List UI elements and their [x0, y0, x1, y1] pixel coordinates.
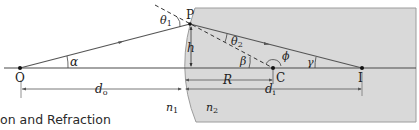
point-O-dot — [18, 66, 22, 70]
label-O: O — [15, 71, 25, 85]
point-C-dot — [271, 66, 275, 70]
label-I: I — [358, 71, 363, 85]
label-R: R — [222, 73, 232, 87]
label-theta1: θ1 — [160, 14, 172, 28]
incident-ray — [20, 24, 190, 68]
label-P: P — [186, 8, 194, 22]
label-gamma: γ — [307, 56, 314, 69]
point-I-dot — [360, 66, 364, 70]
alpha-arc — [67, 56, 68, 68]
do-arrow-left-icon — [22, 88, 26, 91]
figure-caption: on and Refraction — [0, 112, 111, 127]
label-do: do — [95, 82, 108, 97]
label-n1: n1 — [166, 101, 178, 115]
label-phi: ϕ — [282, 50, 290, 63]
point-P-dot — [188, 22, 192, 26]
label-C: C — [276, 71, 285, 85]
medium-n2-region — [185, 8, 416, 122]
label-h: h — [187, 41, 195, 55]
refraction-diagram: O P C I α θ1 θ2 β ϕ γ h R do di n1 n2 — [0, 0, 419, 130]
incident-ray-arrow-icon — [118, 41, 124, 44]
do-arrow-right-icon — [178, 88, 182, 91]
label-beta: β — [239, 55, 246, 68]
label-alpha: α — [70, 55, 78, 69]
